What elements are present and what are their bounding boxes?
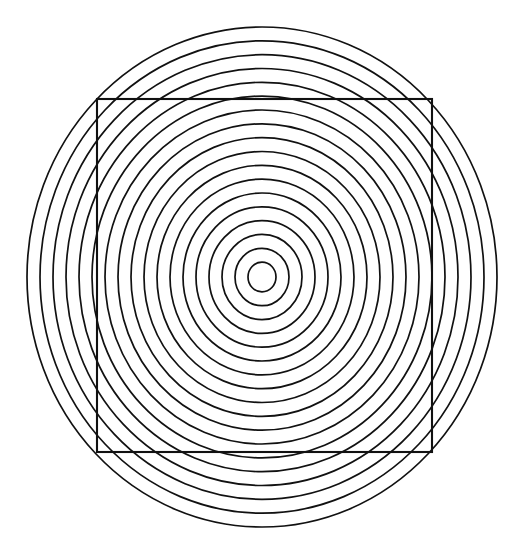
concentric-rings-diagram: [0, 0, 521, 551]
figure-root: [0, 0, 521, 551]
